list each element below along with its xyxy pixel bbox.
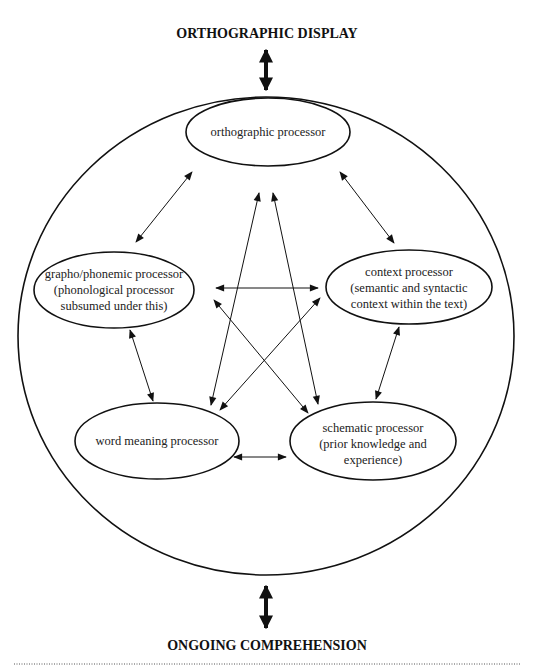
word-meaning-label: word meaning processor: [96, 434, 220, 448]
arrow-orthographic-context: [340, 172, 394, 243]
top-heading: ORTHOGRAPHIC DISPLAY: [176, 26, 357, 41]
processor-orthographic: orthographic processor: [186, 98, 350, 166]
arrow-graphophonemic-word-meaning: [130, 330, 153, 401]
arrow-graphophonemic-schematic: [214, 300, 308, 413]
context-label-line1: context processor: [365, 265, 454, 279]
processor-schematic: schematic processor (prior knowledge and…: [290, 402, 456, 480]
schematic-label-line3: experience): [344, 453, 402, 467]
schematic-label-line2: (prior knowledge and: [319, 437, 427, 451]
arrow-context-word-meaning: [220, 298, 320, 410]
outer-system-circle: [18, 97, 514, 575]
processor-graphophonemic: grapho/phonemic processor (phonological …: [34, 252, 194, 328]
arrow-context-schematic: [376, 327, 399, 399]
graphophonemic-label-line3: subsumed under this): [61, 299, 168, 313]
orthographic-label: orthographic processor: [211, 125, 327, 139]
processor-context: context processor (semantic and syntacti…: [326, 250, 492, 324]
reading-model-diagram: ORTHOGRAPHIC DISPLAY orthographic proces…: [0, 0, 535, 670]
arrow-orthographic-schematic: [273, 193, 318, 404]
processor-word-meaning: word meaning processor: [75, 403, 239, 479]
schematic-label-line1: schematic processor: [322, 421, 424, 435]
bottom-heading: ONGOING COMPREHENSION: [167, 638, 367, 653]
arrow-orthographic-word-meaning: [211, 193, 259, 405]
context-label-line3: context within the text): [351, 297, 467, 311]
graphophonemic-label-line1: grapho/phonemic processor: [45, 267, 184, 281]
connections: [130, 172, 399, 457]
graphophonemic-label-line2: (phonological processor: [54, 283, 175, 297]
arrow-orthographic-graphophonemic: [136, 172, 192, 242]
context-label-line2: (semantic and syntactic: [350, 281, 468, 295]
